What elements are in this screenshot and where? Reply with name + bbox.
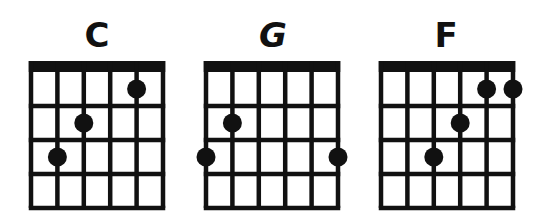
finger-positions bbox=[48, 80, 146, 167]
chord-name: C bbox=[85, 15, 110, 55]
chord-name: G bbox=[259, 15, 287, 55]
finger-dot bbox=[223, 114, 242, 133]
finger-dot bbox=[504, 80, 523, 99]
chord-diagram-f: F bbox=[379, 15, 523, 208]
finger-dot bbox=[451, 114, 470, 133]
chord-name: F bbox=[434, 15, 457, 55]
finger-dot bbox=[74, 114, 93, 133]
finger-dot bbox=[424, 148, 443, 167]
finger-dot bbox=[329, 148, 348, 167]
fretboard-grid bbox=[204, 61, 341, 208]
chord-chart: C G F bbox=[0, 0, 544, 222]
finger-positions bbox=[424, 80, 522, 167]
chord-diagram-c: C bbox=[29, 15, 166, 208]
finger-dot bbox=[197, 148, 216, 167]
chord-diagram-g: G bbox=[197, 15, 348, 208]
fretboard-grid bbox=[379, 61, 516, 208]
fretboard-grid bbox=[29, 61, 166, 208]
finger-dot bbox=[477, 80, 496, 99]
nut bbox=[29, 61, 166, 72]
finger-dot bbox=[127, 80, 146, 99]
nut bbox=[204, 61, 341, 72]
nut bbox=[379, 61, 516, 72]
finger-dot bbox=[48, 148, 67, 167]
